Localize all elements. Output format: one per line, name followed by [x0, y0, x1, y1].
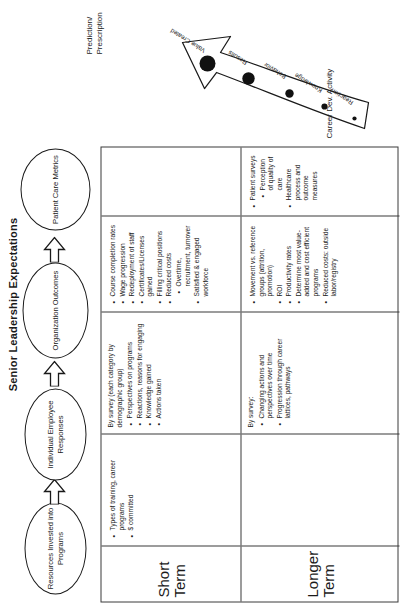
block-arrow-right-icon [42, 478, 66, 504]
sub-list: Perception of quality of care [258, 153, 284, 200]
list-item: Course completion rates [108, 222, 117, 296]
list-item: Perspectives on programs [125, 318, 134, 418]
maturity-curve-graphic: Reaction Knowledge Behavior Results Valu… [78, 4, 378, 146]
list-item: Knowledge gained [144, 318, 153, 418]
list-item: Healthcare process and outcome measures [284, 153, 318, 200]
row-label-short-term: Short Term [101, 545, 240, 601]
flow-node-individual: Individual Employee Responses [24, 388, 86, 480]
flow-node-resources: Resources Invested into Programs [24, 502, 86, 594]
list-item: Progression through career lattices, pat… [275, 318, 292, 418]
cell-short-organization: Course completion ratesWage progressionR… [101, 215, 240, 311]
list-item: Actions taken [154, 318, 163, 418]
cell-list: Types of training, career programs$ comm… [108, 440, 135, 539]
row-label-longer-term: Longer Term [241, 545, 399, 601]
cell-list: Patient surveysPerception of quality of … [248, 153, 319, 209]
flow-arrow-3 [42, 236, 66, 262]
flow-arrow-2 [42, 360, 66, 386]
list-item: $ committed [126, 440, 135, 530]
prediction-prescription-label: Prediction/ Prescription [84, 0, 104, 54]
cell-short-individual: By survey (each category by demographic … [101, 311, 240, 433]
list-item: Changing actions and perspectives over t… [257, 318, 274, 418]
poster-canvas: Senior Leadership Expectations Resources… [0, 0, 417, 608]
table-row-longer-term: Longer Term By survey: Changing actions … [241, 147, 399, 601]
list-item: Productivity rates [284, 222, 293, 296]
list-item: Wage progression [118, 222, 127, 296]
career-dev-activity-label: Career Dev. Activity [324, 68, 334, 138]
cell-long-organization: Movement vs. reference groups (attrition… [241, 215, 399, 311]
flow-node-organization: Organization Outcomes [22, 262, 88, 358]
cell-list: Perspectives on programsReactions, reaso… [125, 318, 162, 427]
sub-list: Overtime, recruitment, turnover [174, 222, 191, 296]
cell-long-individual: By survey: Changing actions and perspect… [241, 311, 399, 433]
flow-node-resources-label: Resources Invested into Programs [45, 503, 65, 593]
flow-arrow-1 [42, 478, 66, 504]
cell-list: Movement vs. reference groups (attrition… [248, 222, 338, 305]
flow-node-individual-label: Individual Employee Responses [45, 389, 65, 479]
list-item: Movement vs. reference groups (attrition… [248, 222, 274, 296]
list-item: Redeployment of staff [127, 222, 136, 296]
cell-short-resources: Types of training, career programs$ comm… [101, 433, 240, 545]
sub-list-item: Overtime, recruitment, turnover [174, 222, 191, 286]
list-item: ROI [275, 222, 284, 296]
block-arrow-right-icon [42, 360, 66, 386]
cell-long-patient: Patient surveysPerception of quality of … [241, 147, 399, 215]
list-item: Certificates/Licenses gained [137, 222, 154, 296]
list-item: Satisfied & engaged workforce [192, 222, 209, 296]
cell-short-patient [101, 147, 240, 215]
expectations-matrix: Short Term Types of training, career pro… [100, 146, 398, 602]
poster-stage: Senior Leadership Expectations Resources… [0, 0, 417, 608]
cell-list: Course completion ratesWage progressionR… [108, 222, 209, 305]
flow-node-patient: Patient Care Metrics [20, 148, 90, 230]
list-item: Reduced costsOvertime, recruitment, turn… [164, 222, 191, 296]
flow-node-organization-label: Organization Outcomes [50, 266, 60, 354]
list-item: Filling critical positions [155, 222, 164, 296]
block-arrow-right-icon [42, 236, 66, 262]
list-item: Reduced costs: outside labor/registry [321, 222, 338, 296]
sub-list-item: Perception of quality of care [258, 153, 284, 190]
list-item: Patient surveysPerception of quality of … [248, 153, 283, 200]
flow-node-patient-label: Patient Care Metrics [50, 151, 60, 228]
cell-long-resources [241, 433, 399, 545]
list-item: Types of training, career programs [108, 440, 125, 530]
page-title: Senior Leadership Expectations [6, 0, 18, 608]
list-item: Determine most value-added and cost effi… [294, 222, 320, 296]
list-item: Reactions, reasons for engaging [135, 318, 144, 418]
table-row-short-term: Short Term Types of training, career pro… [101, 147, 241, 601]
cell-list: Changing actions and perspectives over t… [257, 318, 292, 427]
